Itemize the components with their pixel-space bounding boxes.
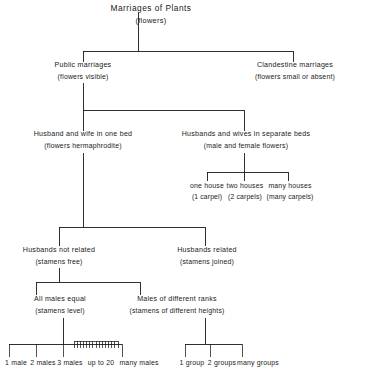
tip-up-to-20: up to 20: [88, 359, 115, 366]
node-root-sublabel: (flowers): [111, 17, 192, 25]
node-clandestine-marriages-label: Clandestine marriages: [255, 62, 335, 69]
node-public-marriages-label: Public marriages: [55, 62, 112, 69]
node-all-males-equal-label: All males equal: [34, 296, 86, 303]
node-clandestine-marriages: Clandestine marriages (flowers small or …: [255, 62, 335, 80]
node-many-houses-sublabel: (many carpels): [266, 193, 313, 200]
node-husbands-related-sublabel: (stamens joined): [177, 258, 237, 265]
node-clandestine-marriages-sublabel: (flowers small or absent): [255, 73, 335, 80]
node-public-marriages-sublabel: (flowers visible): [55, 73, 112, 80]
node-all-males-equal: All males equal (stamens level): [34, 296, 86, 314]
node-husbands-not-related-sublabel: (stamens free): [23, 258, 95, 265]
node-husbands-not-related-label: Husbands not related: [23, 247, 95, 254]
node-root: Marriages of Plants (flowers): [111, 4, 192, 24]
diagram-canvas: Marriages of Plants (flowers) Public mar…: [0, 0, 366, 378]
node-one-bed-label: Husband and wife in one bed: [34, 131, 133, 138]
node-separate-beds: Husbands and wives in separate beds (mal…: [182, 131, 311, 149]
node-husbands-related-label: Husbands related: [177, 247, 237, 254]
node-husbands-not-related: Husbands not related (stamens free): [23, 247, 95, 265]
tip-2-groups: 2 groups: [208, 359, 236, 366]
tip-many-groups: many groups: [237, 359, 279, 366]
node-public-marriages: Public marriages (flowers visible): [55, 62, 112, 80]
node-males-different-ranks: Males of different ranks (stamens of dif…: [129, 296, 224, 314]
node-males-different-ranks-label: Males of different ranks: [129, 296, 224, 303]
tip-many-males: many males: [119, 359, 158, 366]
tip-3-males: 3 males: [57, 359, 83, 366]
node-separate-beds-label: Husbands and wives in separate beds: [182, 131, 311, 138]
node-one-house-sublabel: (1 carpel): [190, 193, 224, 200]
node-one-bed-sublabel: (flowers hermaphrodite): [34, 142, 133, 149]
node-many-houses: many houses (many carpels): [266, 182, 313, 200]
tip-2-males: 2 males: [30, 359, 56, 366]
node-two-houses-label: two houses: [227, 182, 264, 189]
tip-1-group: 1 group: [180, 359, 205, 366]
node-one-house: one house (1 carpel): [190, 182, 224, 200]
node-root-label: Marriages of Plants: [111, 4, 192, 13]
node-many-houses-label: many houses: [266, 182, 313, 189]
node-two-houses: two houses (2 carpels): [227, 182, 264, 200]
node-two-houses-sublabel: (2 carpels): [227, 193, 264, 200]
comb-ticks: [74, 341, 118, 348]
node-separate-beds-sublabel: (male and female flowers): [182, 142, 311, 149]
node-all-males-equal-sublabel: (stamens level): [34, 307, 86, 314]
tip-1-male: 1 male: [5, 359, 27, 366]
node-one-house-label: one house: [190, 182, 224, 189]
node-husbands-related: Husbands related (stamens joined): [177, 247, 237, 265]
node-males-different-ranks-sublabel: (stamens of different heights): [129, 307, 224, 314]
node-one-bed: Husband and wife in one bed (flowers her…: [34, 131, 133, 149]
